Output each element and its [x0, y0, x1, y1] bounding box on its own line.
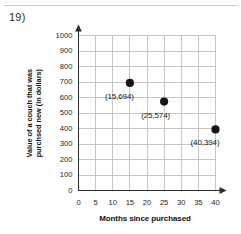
- x-axis-tick-label: 15: [121, 198, 139, 207]
- x-axis-tick-label: 20: [138, 198, 156, 207]
- plot-data-markers: [126, 79, 220, 134]
- data-point-label: (25,574): [141, 111, 170, 120]
- y-axis-title-line-1: Value of a couch that was: [25, 38, 34, 188]
- y-axis-title: Value of a couch that was purchsed new (…: [25, 38, 43, 188]
- y-axis-title-line-2: purchsed new (in dollars): [34, 38, 43, 188]
- y-axis-tick-label: 600: [47, 93, 73, 102]
- x-axis-tick-label: 5: [87, 198, 105, 207]
- x-axis-tick-label: 40: [207, 198, 225, 207]
- y-axis-tick-label: 400: [47, 124, 73, 133]
- x-axis-tick-label: 25: [155, 198, 173, 207]
- plot-axes: [75, 25, 226, 194]
- data-point: [126, 79, 134, 87]
- x-axis-tick-label: 30: [172, 198, 190, 207]
- scatter-plot-figure: 01002003004005006007008009001000 0510152…: [0, 0, 241, 234]
- worksheet-page: 19) 01002003004005006007008009001000 051…: [0, 0, 241, 234]
- data-point-label: (40,394): [191, 138, 220, 147]
- data-point: [211, 125, 219, 133]
- x-axis-tick-label: 10: [104, 198, 122, 207]
- y-axis-tick-label: 800: [47, 62, 73, 71]
- data-point: [160, 97, 168, 105]
- x-axis-arrowhead: [220, 187, 227, 194]
- x-axis-tick-label: 35: [189, 198, 207, 207]
- y-axis-tick-label: 0: [47, 186, 73, 195]
- y-axis-tick-label: 900: [47, 46, 73, 55]
- y-axis-tick-label: 700: [47, 77, 73, 86]
- y-axis-tick-label: 500: [47, 108, 73, 117]
- y-axis-tick-label: 1000: [47, 31, 73, 40]
- y-axis-arrowhead: [75, 25, 82, 32]
- y-axis-tick-label: 100: [47, 170, 73, 179]
- y-axis-tick-label: 200: [47, 155, 73, 164]
- data-point-label: (15,694): [105, 92, 134, 101]
- x-axis-title: Months since purchased: [60, 214, 230, 223]
- x-axis-tick-label: 0: [70, 198, 88, 207]
- y-axis-tick-label: 300: [47, 139, 73, 148]
